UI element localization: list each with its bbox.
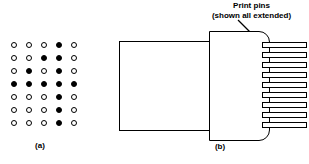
open-dot (11, 107, 17, 113)
open-dot (11, 68, 17, 74)
filled-dot (56, 120, 62, 126)
open-dot (71, 42, 77, 48)
printer-dot-matrix-figure: (a) Print pins (shown all extended) (b) (0, 0, 309, 164)
panel-a-label: (a) (0, 141, 80, 150)
print-pin (262, 62, 307, 68)
filled-dot (56, 94, 62, 100)
filled-dot (11, 81, 17, 87)
open-dot (41, 42, 47, 48)
open-dot (71, 55, 77, 61)
solenoid-body-rectangle (119, 41, 219, 131)
filled-dot (26, 81, 32, 87)
open-dot (41, 94, 47, 100)
panel-b-print-head: Print pins (shown all extended) (b) (110, 0, 309, 164)
open-dot (11, 55, 17, 61)
print-pin (262, 52, 307, 58)
open-dot (26, 94, 32, 100)
panel-a-dot-matrix: (a) (0, 30, 104, 164)
print-pin (262, 122, 307, 128)
filled-dot (56, 81, 62, 87)
filled-dot (41, 81, 47, 87)
open-dot (26, 55, 32, 61)
print-pin (262, 42, 307, 48)
open-dot (71, 107, 77, 113)
print-pin (262, 82, 307, 88)
print-head-housing (209, 31, 270, 141)
filled-dot (56, 68, 62, 74)
open-dot (41, 68, 47, 74)
open-dot (26, 107, 32, 113)
open-dot (26, 120, 32, 126)
filled-dot (56, 55, 62, 61)
filled-dot (71, 81, 77, 87)
filled-dot (56, 42, 62, 48)
open-dot (11, 120, 17, 126)
open-dot (71, 120, 77, 126)
annotation-line-1: Print pins (194, 1, 309, 11)
print-pin (262, 72, 307, 78)
filled-dot (41, 55, 47, 61)
filled-dot (26, 68, 32, 74)
open-dot (71, 68, 77, 74)
dot-matrix-grid (6, 38, 81, 129)
open-dot (41, 107, 47, 113)
print-pin (262, 92, 307, 98)
filled-dot (56, 107, 62, 113)
open-dot (11, 42, 17, 48)
open-dot (41, 120, 47, 126)
open-dot (71, 94, 77, 100)
open-dot (11, 94, 17, 100)
panel-b-label: (b) (170, 142, 270, 151)
open-dot (26, 42, 32, 48)
print-pin (262, 102, 307, 108)
print-pin (262, 112, 307, 118)
